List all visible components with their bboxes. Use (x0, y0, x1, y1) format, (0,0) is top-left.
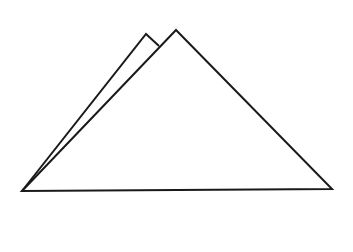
diagram-canvas (0, 0, 353, 252)
triangles-diagram (0, 0, 353, 252)
